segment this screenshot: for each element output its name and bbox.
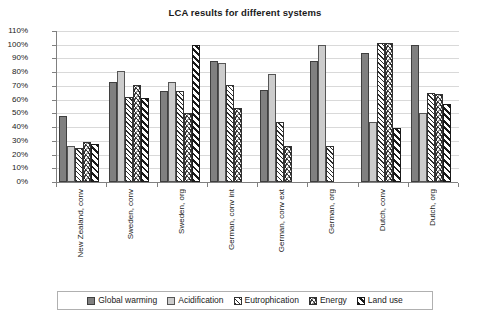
x-axis-tick-mark: [56, 183, 57, 187]
x-axis-tick-mark: [157, 183, 158, 187]
bar[interactable]: [310, 61, 318, 182]
bar-group: [361, 31, 411, 182]
bar-group: [59, 31, 109, 182]
bar[interactable]: [176, 91, 184, 182]
x-axis-tick-mark: [106, 183, 107, 187]
y-axis-tick-label: 40%: [0, 123, 28, 131]
bar-group-inner: [160, 31, 210, 182]
bar[interactable]: [75, 148, 83, 182]
bar-group-inner: [310, 31, 360, 182]
bar[interactable]: [168, 82, 176, 182]
legend-item[interactable]: Land use: [357, 296, 403, 305]
bar-group-inner: [361, 31, 411, 182]
legend-label: Global warming: [98, 296, 157, 305]
x-axis-tick-mark: [408, 183, 409, 187]
bar-group: [160, 31, 210, 182]
bar[interactable]: [427, 93, 435, 182]
bar[interactable]: [284, 146, 292, 182]
legend-item[interactable]: Acidification: [167, 296, 223, 305]
bar[interactable]: [67, 146, 75, 182]
bar[interactable]: [361, 53, 369, 182]
bar[interactable]: [276, 122, 284, 182]
bar[interactable]: [268, 74, 276, 182]
y-axis-tick-label: 80%: [0, 68, 28, 76]
x-axis-tick-label: German, org: [328, 189, 336, 234]
bar-group: [310, 31, 360, 182]
x-axis-tick-label: Dutch, org: [429, 189, 437, 226]
legend-label: Eutrophication: [245, 296, 299, 305]
x-axis-tick-label: Sweden, conv: [127, 189, 135, 239]
bar-group-inner: [59, 31, 109, 182]
bar[interactable]: [419, 113, 427, 182]
bar[interactable]: [435, 94, 443, 182]
bar-group: [411, 31, 461, 182]
y-axis-tick-label: 20%: [0, 151, 28, 159]
x-axis-tick-mark: [358, 183, 359, 187]
bar-group: [109, 31, 159, 182]
bar[interactable]: [184, 113, 192, 182]
y-axis-tick-label: 10%: [0, 164, 28, 172]
legend-swatch: [357, 297, 365, 305]
bar-group: [260, 31, 310, 182]
bar[interactable]: [369, 122, 377, 182]
legend-item[interactable]: Global warming: [87, 296, 157, 305]
y-axis-tick-label: 90%: [0, 54, 28, 62]
x-axis-tick-mark: [257, 183, 258, 187]
chart-title: LCA results for different systems: [0, 7, 490, 18]
bar[interactable]: [260, 90, 268, 182]
plot-area: [56, 31, 458, 183]
bar[interactable]: [234, 108, 242, 182]
bar[interactable]: [192, 45, 200, 182]
bar[interactable]: [393, 128, 401, 182]
x-axis-tick-label: Dutch, conv: [379, 189, 387, 231]
bar-group-inner: [411, 31, 461, 182]
bar[interactable]: [210, 61, 218, 182]
bar[interactable]: [326, 146, 334, 182]
bar[interactable]: [91, 144, 99, 182]
legend-swatch: [167, 297, 175, 305]
y-axis-tick-label: 0%: [0, 178, 28, 186]
y-axis-tick-label: 50%: [0, 109, 28, 117]
bar[interactable]: [411, 45, 419, 182]
legend-swatch: [309, 297, 317, 305]
x-axis-labels: New Zealand, convSweden, convSweden, org…: [56, 183, 458, 283]
x-axis-tick-mark: [458, 183, 459, 187]
bar[interactable]: [125, 97, 133, 182]
bar[interactable]: [141, 98, 149, 182]
bar-group-inner: [210, 31, 260, 182]
bar-group-inner: [109, 31, 159, 182]
y-axis-tick-label: 70%: [0, 82, 28, 90]
legend-label: Land use: [368, 296, 403, 305]
y-axis-tick-label: 100%: [0, 41, 28, 49]
bar[interactable]: [226, 85, 234, 182]
bar[interactable]: [133, 85, 141, 182]
legend-swatch: [87, 297, 95, 305]
legend-label: Energy: [320, 296, 347, 305]
lca-bar-chart: LCA results for different systems 0%10%2…: [0, 0, 490, 325]
x-axis-tick-mark: [207, 183, 208, 187]
bar-group: [210, 31, 260, 182]
bar[interactable]: [385, 43, 393, 182]
bar[interactable]: [83, 142, 91, 182]
x-axis-tick-mark: [307, 183, 308, 187]
x-axis-tick-label: New Zealand, conv: [77, 189, 85, 257]
legend-swatch: [234, 297, 242, 305]
bar-group-inner: [260, 31, 310, 182]
y-axis-tick-label: 30%: [0, 137, 28, 145]
y-axis-tick-label: 60%: [0, 96, 28, 104]
bar[interactable]: [318, 45, 326, 182]
legend-label: Acidification: [178, 296, 223, 305]
y-axis-tick-label: 110%: [0, 27, 28, 35]
bar[interactable]: [218, 63, 226, 182]
x-axis-tick-label: German, conv int: [228, 189, 236, 250]
legend-item[interactable]: Energy: [309, 296, 347, 305]
bar[interactable]: [377, 43, 385, 182]
bar[interactable]: [117, 71, 125, 182]
bar[interactable]: [59, 116, 67, 182]
x-axis-tick-label: Sweden, org: [178, 189, 186, 234]
x-axis-tick-label: German, conv ext: [278, 189, 286, 252]
bar[interactable]: [443, 104, 451, 182]
bar[interactable]: [109, 82, 117, 182]
legend-item[interactable]: Eutrophication: [234, 296, 299, 305]
bar[interactable]: [160, 91, 168, 182]
